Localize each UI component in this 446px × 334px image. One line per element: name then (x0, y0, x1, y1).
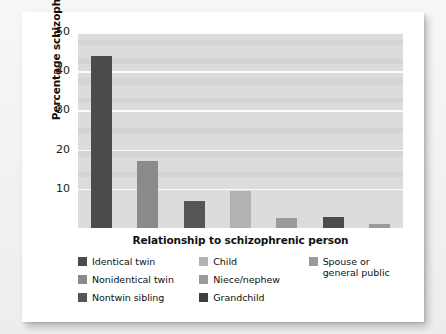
legend-item[interactable]: Grandchild (199, 292, 308, 303)
legend-swatch-icon (199, 257, 208, 266)
y-axis-tick-label: 10 (40, 183, 70, 194)
legend-item[interactable]: Identical twin (78, 256, 199, 267)
legend-item[interactable]: Nonidentical twin (78, 274, 199, 285)
bar (230, 191, 251, 228)
y-axis-tick-label: 40 (40, 65, 70, 76)
gridline (78, 150, 403, 152)
bar-chart-figure: Percentage schizophrenic 1020304050 Rela… (22, 12, 424, 322)
gridline (78, 110, 403, 112)
legend-item[interactable]: Niece/nephew (199, 274, 308, 285)
page-background: Percentage schizophrenic 1020304050 Rela… (0, 0, 446, 334)
legend-label: Child (213, 256, 237, 267)
gridline (78, 32, 403, 34)
bar (369, 224, 390, 228)
y-axis-tick-label: 50 (40, 26, 70, 37)
background-texture (78, 78, 403, 85)
y-axis-tick-labels: 1020304050 (40, 24, 70, 234)
bar (91, 56, 112, 228)
legend-swatch-icon (78, 257, 87, 266)
background-texture (78, 58, 403, 64)
legend-swatch-icon (199, 293, 208, 302)
legend-item[interactable]: Nontwin sibling (78, 292, 199, 303)
background-texture (78, 172, 403, 177)
legend-label: Identical twin (92, 256, 155, 267)
legend-label: Nonidentical twin (92, 274, 174, 285)
legend-label: Niece/nephew (213, 274, 280, 285)
chart-legend: Identical twinNonidentical twinNontwin s… (78, 256, 418, 314)
legend-column: ChildNiece/nephewGrandchild (199, 256, 308, 314)
legend-label: Nontwin sibling (92, 292, 164, 303)
y-axis-tick-label: 20 (40, 144, 70, 155)
legend-column: Spouse or general public (309, 256, 418, 314)
legend-swatch-icon (78, 275, 87, 284)
legend-item[interactable]: Spouse or general public (309, 256, 418, 278)
legend-label: Spouse or general public (323, 256, 390, 278)
bar (323, 217, 344, 228)
x-axis-title: Relationship to schizophrenic person (78, 234, 403, 246)
background-texture (78, 40, 403, 45)
legend-swatch-icon (199, 275, 208, 284)
bar (276, 218, 297, 228)
y-axis-tick-label: 30 (40, 104, 70, 115)
legend-column: Identical twinNonidentical twinNontwin s… (78, 256, 199, 314)
plot-area (78, 32, 403, 228)
legend-item[interactable]: Child (199, 256, 308, 267)
gridline (78, 71, 403, 73)
background-texture (78, 128, 403, 134)
legend-swatch-icon (78, 293, 87, 302)
figure-card: Percentage schizophrenic 1020304050 Rela… (22, 12, 424, 322)
background-texture (78, 98, 403, 103)
legend-swatch-icon (309, 257, 318, 266)
bar (184, 201, 205, 228)
legend-label: Grandchild (213, 292, 264, 303)
bar (137, 161, 158, 228)
